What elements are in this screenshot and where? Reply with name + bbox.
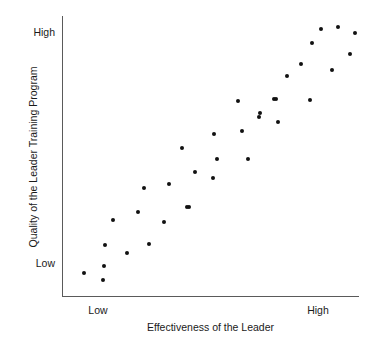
data-point [136, 210, 140, 214]
plot-area [62, 16, 359, 297]
data-point [319, 27, 323, 31]
data-point [246, 157, 250, 161]
data-point [103, 243, 107, 247]
data-point [330, 68, 334, 72]
data-point [193, 170, 197, 174]
x-axis-title: Effectiveness of the Leader [62, 321, 359, 333]
data-point [336, 25, 340, 29]
data-point [111, 218, 115, 222]
data-point [82, 271, 86, 275]
data-point [240, 129, 244, 133]
scatter-plot-figure: High Low Low High Effectiveness of the L… [0, 0, 373, 337]
data-point [101, 278, 105, 282]
data-point [274, 97, 278, 101]
data-point [285, 74, 289, 78]
data-point [257, 115, 261, 119]
data-point [162, 220, 166, 224]
data-point [299, 62, 303, 66]
data-point [236, 99, 240, 103]
data-point [353, 31, 357, 35]
data-point [348, 52, 352, 56]
x-axis-tick-label-low: Low [80, 304, 116, 316]
data-point [102, 264, 106, 268]
data-point [211, 176, 215, 180]
data-point [215, 157, 219, 161]
y-axis-title: Quality of the Leader Training Program [27, 12, 39, 302]
data-point [276, 120, 280, 124]
data-point [142, 186, 146, 190]
data-point [212, 132, 216, 136]
data-point [258, 111, 262, 115]
data-point [167, 182, 171, 186]
data-point [308, 98, 312, 102]
x-axis-tick-label-high: High [300, 304, 336, 316]
data-point [310, 41, 314, 45]
data-point [125, 251, 129, 255]
data-point [147, 242, 151, 246]
data-point [180, 146, 184, 150]
